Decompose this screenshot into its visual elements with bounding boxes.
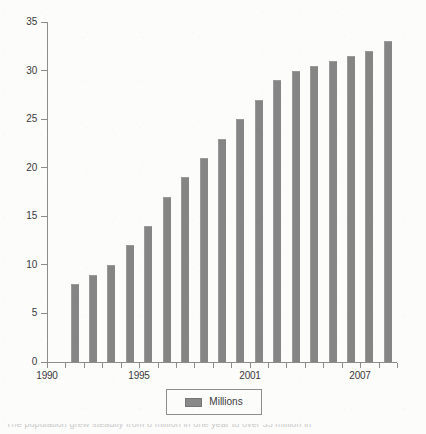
bar [273, 80, 281, 362]
bar [365, 51, 373, 362]
caption-text: The population grew steadily from 8 mill… [6, 424, 311, 429]
x-tick [176, 363, 177, 368]
bar [144, 226, 152, 362]
legend-swatch-millions [185, 398, 202, 407]
x-tick [139, 363, 140, 368]
legend-label-millions: Millions [209, 397, 242, 407]
y-tick-label: 15 [0, 211, 37, 221]
y-tick-label: 30 [0, 66, 37, 76]
bar [107, 265, 115, 362]
x-tick [323, 363, 324, 368]
bar [292, 71, 300, 362]
bar [329, 61, 337, 362]
x-tick [379, 363, 380, 368]
bar [236, 119, 244, 362]
bar [126, 245, 134, 362]
y-tick-label: 25 [0, 114, 37, 124]
caption-strip: The population grew steadily from 8 mill… [0, 424, 426, 434]
y-tick-label: 5 [0, 308, 37, 318]
bar-series-millions [47, 22, 397, 362]
bar [71, 284, 79, 362]
x-tick [286, 363, 287, 368]
y-tick-label: 0 [0, 357, 37, 367]
bar [347, 56, 355, 362]
x-tick-label: 1990 [27, 370, 67, 381]
bar [218, 139, 226, 362]
bar [163, 197, 171, 362]
x-tick [305, 363, 306, 368]
x-tick [65, 363, 66, 368]
bar [255, 100, 263, 362]
chart-legend: Millions [166, 389, 262, 415]
y-tick-label: 10 [0, 260, 37, 270]
x-tick [397, 363, 398, 368]
x-tick-label: 1995 [119, 370, 159, 381]
y-tick-label: 20 [0, 163, 37, 173]
x-tick [47, 363, 48, 368]
bar [384, 41, 392, 362]
x-axis-line [47, 362, 397, 363]
x-tick [194, 363, 195, 368]
x-tick [213, 363, 214, 368]
x-tick [342, 363, 343, 368]
x-tick [250, 363, 251, 368]
x-tick-label: 2007 [340, 370, 380, 381]
x-tick [84, 363, 85, 368]
y-tick-label: 35 [0, 17, 37, 27]
x-tick [121, 363, 122, 368]
x-tick [158, 363, 159, 368]
x-tick [231, 363, 232, 368]
bar [200, 158, 208, 362]
x-tick [268, 363, 269, 368]
x-tick [102, 363, 103, 368]
bar-chart: 05101520253035 1990199520012007 Millions… [0, 0, 426, 434]
bar [310, 66, 318, 362]
x-tick [360, 363, 361, 368]
bar [89, 275, 97, 362]
x-tick-label: 2001 [230, 370, 270, 381]
bar [181, 177, 189, 362]
